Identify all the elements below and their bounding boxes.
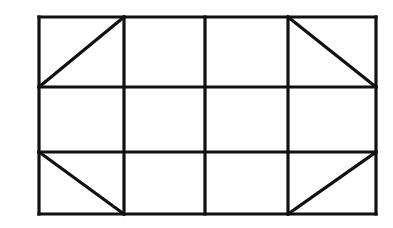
diagonal-top-left (39, 17, 124, 87)
diagonal-bottom-right (288, 152, 376, 214)
diagonal-lines (39, 17, 376, 214)
diagonal-top-right (288, 17, 376, 87)
diagonal-bottom-left (39, 152, 124, 214)
grid-figure (0, 0, 393, 228)
grid-diagram (0, 0, 393, 228)
